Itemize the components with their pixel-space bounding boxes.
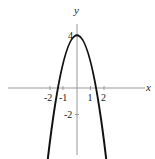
x-tick-label-1: 1: [88, 92, 93, 103]
x-tick-label-2: 2: [101, 92, 106, 103]
y-axis-label: y: [73, 4, 79, 16]
y-tick-label-4: 4: [68, 30, 73, 41]
y-tick-label-neg2: -2: [64, 109, 72, 120]
parabola-graph: y x -2 -1 1 2 4 -2: [0, 0, 155, 159]
x-tick-label-neg1: -1: [59, 92, 67, 103]
x-tick-label-neg2: -2: [44, 92, 52, 103]
x-axis-label: x: [145, 81, 151, 93]
